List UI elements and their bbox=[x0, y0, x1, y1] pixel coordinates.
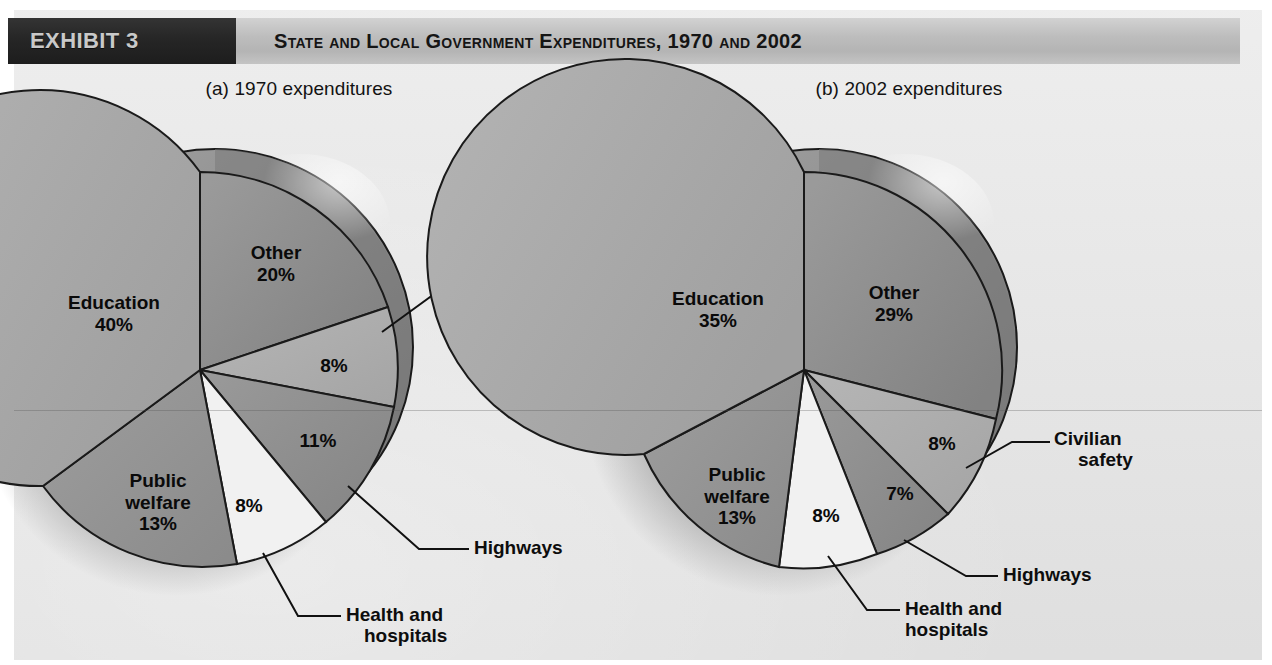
chart-panel-2002: (b) 2002 expenditures bbox=[614, 64, 1238, 650]
slice-label-other: Other 29% bbox=[869, 282, 920, 325]
slice-label-highways-pct: 11% bbox=[300, 430, 337, 452]
slice-label-civilian-safety-pct: 8% bbox=[320, 355, 347, 377]
slice-label-education: Education 35% bbox=[672, 288, 764, 331]
slice-label-health-pct: 8% bbox=[812, 505, 839, 527]
pie-chart-2002 bbox=[614, 64, 1238, 650]
exhibit-title-band: State and Local Government Expenditures,… bbox=[236, 18, 1240, 64]
exhibit-number-label: EXHIBIT 3 bbox=[8, 28, 139, 54]
exhibit-number-box: EXHIBIT 3 bbox=[8, 18, 236, 64]
pie-slice-education bbox=[427, 59, 804, 455]
callout-health-hospitals: Health and hospitals bbox=[346, 604, 447, 647]
slice-label-highways-pct: 7% bbox=[886, 483, 913, 505]
slice-label-other: Other 20% bbox=[251, 242, 302, 285]
page-title: State and Local Government Expenditures,… bbox=[236, 30, 802, 53]
callout-highways: Highways bbox=[1003, 564, 1092, 585]
slice-label-health-pct: 8% bbox=[235, 495, 262, 517]
slice-label-education: Education 40% bbox=[68, 292, 160, 335]
callout-health-hospitals: Health and hospitals bbox=[905, 598, 1002, 641]
leader-line-highways bbox=[904, 540, 998, 576]
exhibit-page: EXHIBIT 3 State and Local Government Exp… bbox=[0, 0, 1272, 665]
charts-container: (a) 1970 expenditures bbox=[0, 64, 1248, 650]
exhibit-header: EXHIBIT 3 State and Local Government Exp… bbox=[0, 18, 1248, 64]
callout-highways: Highways bbox=[474, 537, 563, 558]
callout-civilian-safety: Civilian safety bbox=[1054, 428, 1133, 471]
slice-label-public-welfare: Public welfare 13% bbox=[125, 470, 190, 535]
slice-label-civilian-safety-pct: 8% bbox=[928, 433, 955, 455]
leader-line-highways bbox=[348, 486, 469, 549]
slice-label-public-welfare: Public welfare 13% bbox=[704, 464, 769, 529]
